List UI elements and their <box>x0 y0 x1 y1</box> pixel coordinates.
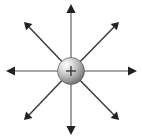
point-charge <box>58 58 85 85</box>
field-diagram-svg: Electric field of a positive point charg… <box>0 0 142 138</box>
field-diagram-canvas: Electric field of a positive point charg… <box>0 0 142 138</box>
